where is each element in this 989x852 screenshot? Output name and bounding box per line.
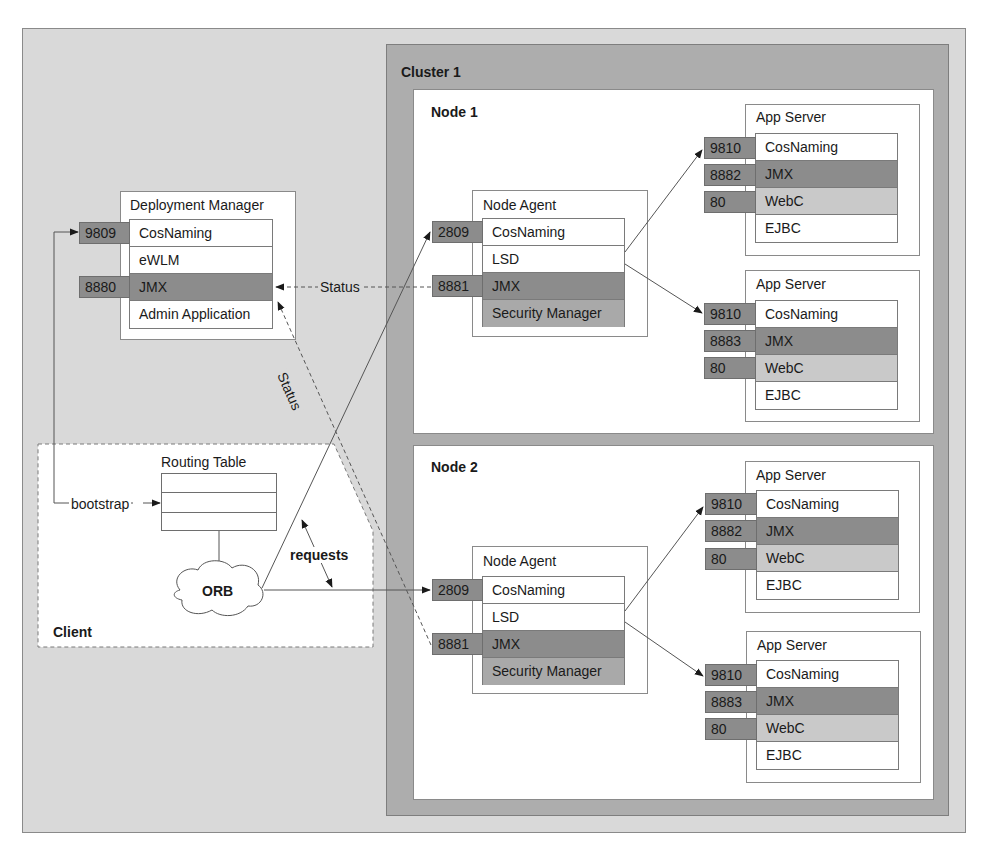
port-badge: 9809 bbox=[79, 222, 130, 244]
service-cosnaming: CosNaming bbox=[130, 220, 272, 247]
deployment-manager-title: Deployment Manager bbox=[130, 197, 264, 213]
port-badge: 8883 bbox=[704, 330, 756, 352]
port-badge: 80 bbox=[704, 191, 756, 213]
service-cosnaming: CosNaming bbox=[756, 134, 897, 161]
port-badge: 2809 bbox=[432, 221, 483, 243]
service-jmx: JMX bbox=[756, 161, 897, 188]
node-agent-title: Node Agent bbox=[483, 197, 556, 213]
app-server-services: CosNaming JMX WebC EJBC bbox=[756, 660, 899, 770]
client-label: Client bbox=[53, 624, 92, 640]
routing-table-divider bbox=[162, 512, 276, 513]
port-badge: 9810 bbox=[704, 303, 756, 325]
port-badge: 80 bbox=[704, 357, 756, 379]
service-cosnaming: CosNaming bbox=[756, 301, 897, 328]
service-lsd: LSD bbox=[483, 604, 624, 631]
port-badge: 8882 bbox=[705, 520, 757, 542]
port-badge: 8881 bbox=[432, 275, 483, 297]
service-lsd: LSD bbox=[483, 246, 624, 273]
service-jmx: JMX bbox=[130, 274, 272, 301]
service-jmx: JMX bbox=[757, 688, 898, 715]
service-webc: WebC bbox=[757, 545, 898, 572]
service-jmx: JMX bbox=[757, 518, 898, 545]
app-server-services: CosNaming JMX WebC EJBC bbox=[755, 133, 898, 243]
service-cosnaming: CosNaming bbox=[757, 491, 898, 518]
deployment-manager-services: CosNaming eWLM JMX Admin Application bbox=[129, 219, 273, 329]
port-badge: 2809 bbox=[432, 579, 483, 601]
status-label-horizontal: Status bbox=[318, 279, 362, 295]
app-server-title: App Server bbox=[756, 109, 826, 125]
port-badge: 80 bbox=[705, 548, 757, 570]
service-ejbc: EJBC bbox=[757, 572, 898, 599]
node-agent-title: Node Agent bbox=[483, 553, 556, 569]
service-security-manager: Security Manager bbox=[483, 300, 624, 327]
port-badge: 80 bbox=[705, 718, 757, 740]
service-admin-application: Admin Application bbox=[130, 301, 272, 328]
service-ejbc: EJBC bbox=[756, 382, 897, 409]
routing-table bbox=[161, 473, 277, 531]
app-server-services: CosNaming JMX WebC EJBC bbox=[756, 490, 899, 600]
port-badge: 8881 bbox=[432, 633, 483, 655]
service-cosnaming: CosNaming bbox=[757, 661, 898, 688]
bootstrap-label: bootstrap bbox=[69, 496, 131, 512]
service-webc: WebC bbox=[756, 188, 897, 215]
port-badge: 8883 bbox=[705, 691, 757, 713]
app-server-title: App Server bbox=[756, 276, 826, 292]
service-ejbc: EJBC bbox=[757, 742, 898, 769]
service-webc: WebC bbox=[757, 715, 898, 742]
port-badge: 9810 bbox=[705, 493, 757, 515]
requests-label: requests bbox=[290, 547, 348, 563]
node-agent-2-services: CosNaming LSD JMX Security Manager bbox=[482, 576, 625, 685]
port-badge: 9810 bbox=[705, 664, 757, 686]
routing-table-title: Routing Table bbox=[161, 454, 246, 470]
port-badge: 8880 bbox=[79, 276, 130, 298]
service-webc: WebC bbox=[756, 355, 897, 382]
service-jmx: JMX bbox=[756, 328, 897, 355]
service-cosnaming: CosNaming bbox=[483, 577, 624, 604]
service-ewlm: eWLM bbox=[130, 247, 272, 274]
service-cosnaming: CosNaming bbox=[483, 219, 624, 246]
node-agent-1-services: CosNaming LSD JMX Security Manager bbox=[482, 218, 625, 327]
orb-label: ORB bbox=[202, 583, 233, 599]
service-security-manager: Security Manager bbox=[483, 658, 624, 685]
routing-table-divider bbox=[162, 492, 276, 493]
app-server-title: App Server bbox=[757, 637, 827, 653]
service-jmx: JMX bbox=[483, 631, 624, 658]
app-server-title: App Server bbox=[756, 467, 826, 483]
app-server-services: CosNaming JMX WebC EJBC bbox=[755, 300, 898, 410]
port-badge: 8882 bbox=[704, 164, 756, 186]
service-jmx: JMX bbox=[483, 273, 624, 300]
port-badge: 9810 bbox=[704, 137, 756, 159]
service-ejbc: EJBC bbox=[756, 215, 897, 242]
